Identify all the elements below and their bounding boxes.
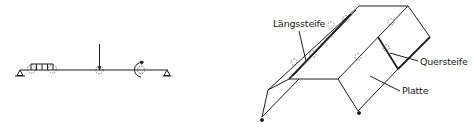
left-leg-edge — [262, 90, 268, 117]
leader-laengssteife — [299, 31, 306, 61]
stiffener-marker — [355, 54, 361, 60]
stiffener-marker — [328, 22, 334, 28]
label-quersteife: Quersteife — [420, 56, 468, 67]
point-load-icon — [96, 44, 104, 74]
front-leg-edge — [338, 79, 358, 111]
right-slope-edge — [408, 6, 430, 37]
beam-diagram — [15, 44, 172, 77]
transverse-stiffener — [378, 37, 398, 69]
leader-platte — [370, 76, 400, 91]
support-point-front — [357, 111, 360, 114]
left-inner-leg — [262, 79, 299, 117]
label-platte: Platte — [402, 85, 428, 96]
distributed-load-icon — [27, 64, 56, 73]
support-point-left — [260, 118, 263, 121]
moment-load-icon — [134, 61, 144, 77]
pin-support-right-icon — [163, 70, 172, 76]
pin-support-left-icon — [15, 70, 25, 76]
plate-lower-edge — [358, 69, 398, 111]
figure-canvas — [0, 0, 474, 135]
label-laengssteife: Längssteife — [273, 18, 325, 29]
